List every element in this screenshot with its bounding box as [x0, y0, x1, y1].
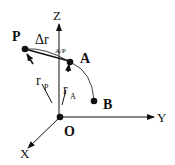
point-b-label: B — [103, 97, 112, 112]
point-a-label: A — [80, 51, 91, 66]
diagram-canvas: Z Y X O P A B Δr A/P r P r A — [0, 0, 175, 165]
point-b — [91, 98, 98, 105]
point-p-label: P — [12, 29, 21, 44]
y-axis-label: Y — [157, 110, 167, 125]
x-axis — [28, 117, 60, 148]
delta-r-subscript: A/P — [55, 47, 66, 55]
delta-r-label: Δr — [35, 32, 49, 47]
x-axis-label: X — [20, 146, 30, 161]
origin-label: O — [64, 124, 75, 139]
r-a-arrow — [68, 64, 69, 72]
vector-diagram: Z Y X O P A B Δr A/P r P r A — [0, 0, 175, 165]
r-p-arrow — [27, 54, 33, 64]
r-a-label: r — [63, 82, 68, 97]
point-a — [67, 59, 74, 66]
r-p-subscript: P — [44, 83, 49, 92]
r-a-subscript: A — [70, 92, 76, 101]
z-axis-label: Z — [53, 8, 61, 23]
r-p-label: r — [36, 73, 41, 88]
point-p — [22, 46, 29, 53]
point-origin — [57, 114, 64, 121]
